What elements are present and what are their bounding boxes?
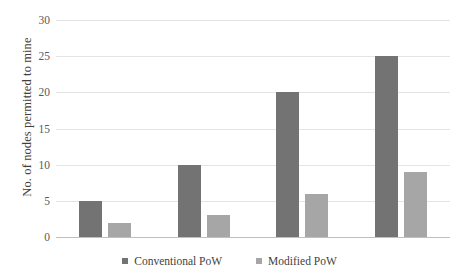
legend-item-label: Conventional PoW (134, 255, 222, 267)
bar (375, 56, 398, 237)
bar (178, 165, 201, 237)
y-axis-tick-labels: 051015202530 (22, 20, 50, 238)
y-axis-tick-label: 30 (22, 14, 50, 26)
bar (276, 92, 299, 237)
legend-swatch-icon (122, 258, 128, 264)
y-axis-tick-label: 25 (22, 50, 50, 62)
y-axis-tick-label: 0 (22, 231, 50, 243)
legend-item[interactable]: Conventional PoW (122, 255, 222, 267)
y-axis-tick-label: 5 (22, 195, 50, 207)
x-axis-line (56, 237, 450, 238)
bar-chart-figure: No. of nodes permitted to mine 051015202… (0, 0, 459, 275)
bar (108, 223, 131, 237)
bar (79, 201, 102, 237)
legend-item[interactable]: Modified PoW (256, 255, 337, 267)
bar (207, 215, 230, 237)
y-axis-tick-label: 10 (22, 159, 50, 171)
y-axis-tick-label: 20 (22, 86, 50, 98)
gridline (56, 20, 450, 21)
legend-swatch-icon (256, 258, 262, 264)
chart-legend: Conventional PoWModified PoW (0, 251, 459, 271)
bar (305, 194, 328, 237)
bar (404, 172, 427, 237)
y-axis-tick-label: 15 (22, 123, 50, 135)
plot-area (56, 20, 450, 238)
legend-item-label: Modified PoW (268, 255, 337, 267)
